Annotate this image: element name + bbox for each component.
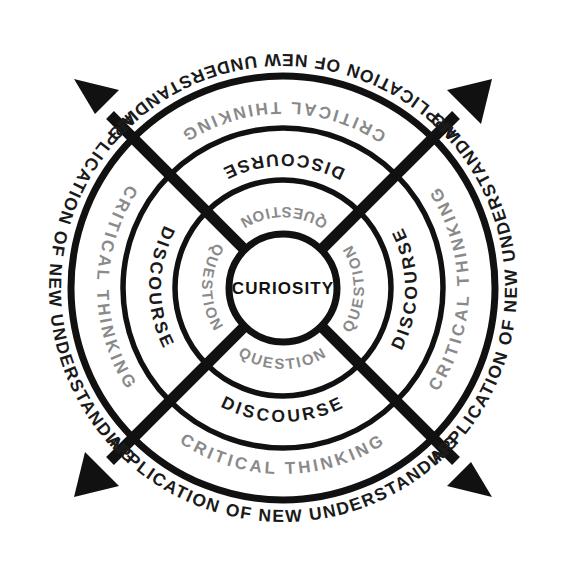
question-text-left: QUESTION [338, 241, 367, 335]
application-text-bottom: APPLICATION OF NEW UNDERSTANDING [103, 430, 463, 526]
curiosity-label: CURIOSITY [232, 279, 334, 298]
question-text-bottom: QUESTION [236, 343, 330, 372]
application-label-top: APPLICATION OF NEW UNDERSTANDING [103, 50, 463, 146]
critical-thinking-text-bottom: CRITICAL THINKING [177, 430, 389, 478]
critical-thinking-label-right: CRITICAL THINKING [93, 182, 141, 394]
question-label-right: QUESTION [199, 241, 228, 335]
cycle-diagram-canvas: APPLICATION OF NEW UNDERSTANDING APPLICA… [0, 0, 564, 568]
application-text-right: APPLICATION OF NEW UNDERSTANDING [45, 108, 141, 468]
application-text-top: APPLICATION OF NEW UNDERSTANDING [103, 50, 463, 146]
question-label-top: QUESTION [236, 204, 330, 233]
critical-thinking-text-left: CRITICAL THINKING [425, 182, 473, 394]
application-label-right: APPLICATION OF NEW UNDERSTANDING [45, 108, 141, 468]
question-text-right: QUESTION [199, 241, 228, 335]
inquiry-cycle-diagram: APPLICATION OF NEW UNDERSTANDING APPLICA… [0, 0, 564, 568]
critical-thinking-text-right: CRITICAL THINKING [93, 182, 141, 394]
application-label-bottom: APPLICATION OF NEW UNDERSTANDING [103, 430, 463, 526]
critical-thinking-text-top: CRITICAL THINKING [177, 98, 389, 146]
critical-thinking-label-bottom: CRITICAL THINKING [177, 430, 389, 478]
critical-thinking-label-left: CRITICAL THINKING [425, 182, 473, 394]
application-text-left: APPLICATION OF NEW UNDERSTANDING [425, 108, 521, 468]
question-label-bottom: QUESTION [236, 343, 330, 372]
critical-thinking-label-top: CRITICAL THINKING [177, 98, 389, 146]
application-label-left: APPLICATION OF NEW UNDERSTANDING [425, 108, 521, 468]
question-label-left: QUESTION [338, 241, 367, 335]
question-text-top: QUESTION [236, 204, 330, 233]
